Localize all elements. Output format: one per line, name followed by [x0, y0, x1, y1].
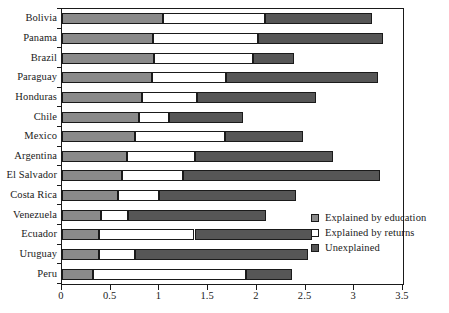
y-axis-label-brazil: Brazil	[0, 52, 57, 63]
y-axis-label-panama: Panama	[0, 32, 57, 43]
y-axis-tick	[57, 28, 61, 29]
bar-segment	[62, 190, 118, 201]
y-axis-tick	[57, 185, 61, 186]
bar-segment	[135, 131, 225, 142]
bar-segment	[258, 33, 383, 44]
bar-segment	[62, 269, 93, 280]
bar-segment	[62, 131, 135, 142]
bar-segment	[153, 33, 258, 44]
bar-segment	[62, 112, 139, 123]
bar-segment	[197, 92, 316, 103]
y-axis-tick	[57, 204, 61, 205]
bar-segment	[195, 151, 332, 162]
y-axis-tick	[57, 87, 61, 88]
legend-item: Unexplained	[311, 240, 447, 255]
y-axis-label-venezuela: Venezuela	[0, 209, 57, 220]
bar-segment	[62, 210, 101, 221]
y-axis-tick	[57, 244, 61, 245]
legend-label: Explained by returns	[325, 227, 414, 239]
bar-segment	[62, 229, 99, 240]
bar-segment	[159, 190, 295, 201]
legend-label: Unexplained	[325, 242, 380, 254]
bar-segment	[139, 112, 169, 123]
y-axis-tick	[57, 47, 61, 48]
bar-segment	[122, 170, 182, 181]
legend-item: Explained by education	[311, 210, 447, 225]
bar-segment	[154, 53, 253, 64]
y-axis-label-bolivia: Bolivia	[0, 12, 57, 23]
bar-segment	[225, 131, 303, 142]
y-axis-label-el-salvador: El Salvador	[0, 169, 57, 180]
bar-segment	[169, 112, 243, 123]
x-axis-label: 1.5	[187, 290, 227, 302]
bar-segment	[62, 13, 163, 24]
y-axis-tick	[57, 283, 61, 284]
chart-legend: Explained by educationExplained by retur…	[311, 210, 447, 255]
bar-segment	[142, 92, 198, 103]
y-axis-label-paraguay: Paraguay	[0, 71, 57, 82]
y-axis-tick	[57, 146, 61, 147]
y-axis-tick	[57, 165, 61, 166]
y-axis-labels: BoliviaPanamaBrazilParaguayHondurasChile…	[0, 8, 57, 285]
bar-segment	[62, 53, 154, 64]
legend-swatch-icon	[311, 214, 319, 222]
y-axis-label-ecuador: Ecuador	[0, 228, 57, 239]
y-axis-label-honduras: Honduras	[0, 91, 57, 102]
bar-segment	[62, 33, 153, 44]
bar-segment	[62, 92, 142, 103]
bar-segment	[93, 269, 246, 280]
legend-swatch-icon	[311, 229, 319, 237]
bar-segment	[62, 151, 127, 162]
x-axis-label: 3.5	[382, 290, 422, 302]
y-axis-label-chile: Chile	[0, 111, 57, 122]
bar-segment	[118, 190, 160, 201]
bar-segment	[265, 13, 372, 24]
y-axis-label-costa-rica: Costa Rica	[0, 189, 57, 200]
x-axis-label: 2.5	[285, 290, 325, 302]
legend-label: Explained by education	[325, 212, 426, 224]
bar-segment	[62, 170, 122, 181]
y-axis-label-peru: Peru	[0, 268, 57, 279]
x-axis-label: 0	[41, 290, 81, 302]
y-axis-label-argentina: Argentina	[0, 150, 57, 161]
y-axis-label-mexico: Mexico	[0, 130, 57, 141]
bar-segment	[99, 229, 194, 240]
bar-segment	[163, 13, 264, 24]
bar-segment	[246, 269, 292, 280]
y-axis-tick	[57, 106, 61, 107]
y-axis-tick	[57, 224, 61, 225]
bar-segment	[101, 210, 128, 221]
legend-item: Explained by returns	[311, 225, 447, 240]
bar-segment	[62, 249, 99, 260]
y-axis-tick	[57, 67, 61, 68]
legend-swatch-icon	[311, 244, 319, 252]
y-axis-tick	[57, 126, 61, 127]
bar-segment	[152, 72, 226, 83]
bar-segment	[253, 53, 294, 64]
bar-segment	[99, 249, 135, 260]
bar-segment	[183, 170, 380, 181]
bar-segment	[62, 72, 152, 83]
bar-segment	[226, 72, 378, 83]
y-axis-label-uruguay: Uruguay	[0, 248, 57, 259]
y-axis-tick	[57, 263, 61, 264]
x-axis-label: 3	[333, 290, 373, 302]
bar-segment	[195, 229, 313, 240]
x-axis-label: 1	[138, 290, 178, 302]
y-axis-tick	[57, 8, 61, 9]
x-axis-label: 2	[236, 290, 276, 302]
x-axis-label: 0.5	[90, 290, 130, 302]
bar-segment	[135, 249, 307, 260]
stacked-bar-chart: BoliviaPanamaBrazilParaguayHondurasChile…	[0, 0, 449, 313]
bar-segment	[127, 151, 195, 162]
bar-segment	[128, 210, 265, 221]
